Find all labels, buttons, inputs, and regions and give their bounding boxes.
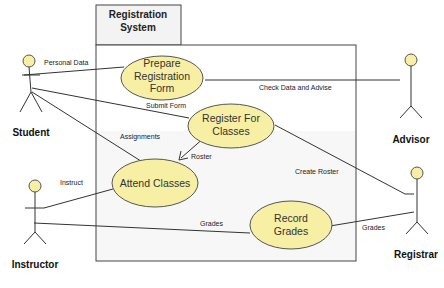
use-case-register-classes[interactable]: Register For Classes	[188, 104, 274, 148]
actor-registrar[interactable]: Registrar	[394, 167, 438, 260]
label-grades-registrar: Grades	[362, 224, 385, 231]
label-create-roster: Create Roster	[295, 168, 339, 175]
use-case-prepare-form[interactable]: Prepare Registration Form	[121, 56, 203, 100]
svg-text:Register For: Register For	[202, 112, 260, 124]
svg-text:Form: Form	[150, 82, 175, 94]
actor-icon	[23, 55, 35, 67]
label-grades-instructor: Grades	[200, 220, 223, 227]
system-title-line1: Registration	[109, 9, 167, 20]
svg-text:Registration: Registration	[134, 70, 190, 82]
actor-name-student: Student	[12, 127, 50, 138]
actor-student[interactable]: Student	[12, 55, 50, 138]
svg-text:Record: Record	[274, 212, 308, 224]
svg-text:Attend Classes: Attend Classes	[120, 177, 191, 189]
svg-text:Classes: Classes	[212, 125, 249, 137]
label-assignments: Assignments	[120, 133, 161, 141]
use-case-record-grades[interactable]: Record Grades	[250, 201, 332, 249]
actor-name-advisor: Advisor	[392, 134, 429, 145]
actor-icon	[405, 54, 417, 66]
svg-text:Prepare: Prepare	[143, 57, 181, 69]
actor-icon	[29, 180, 41, 192]
actor-name-registrar: Registrar	[394, 249, 438, 260]
label-instruct: Instruct	[60, 179, 83, 186]
label-submit-form: Submit Form	[146, 102, 186, 109]
label-roster: Roster	[191, 153, 212, 160]
label-check-data: Check Data and Advise	[259, 84, 332, 91]
actor-name-instructor: Instructor	[12, 259, 59, 270]
use-case-attend-classes[interactable]: Attend Classes	[112, 159, 198, 207]
use-case-diagram: Registration System Prepare Registration…	[0, 0, 444, 288]
system-title-line2: System	[120, 22, 156, 33]
label-personal-data: Personal Data	[44, 59, 88, 66]
actor-advisor[interactable]: Advisor	[392, 54, 429, 145]
svg-text:Grades: Grades	[274, 225, 308, 237]
actor-icon	[411, 167, 423, 179]
actor-instructor[interactable]: Instructor	[12, 180, 59, 270]
